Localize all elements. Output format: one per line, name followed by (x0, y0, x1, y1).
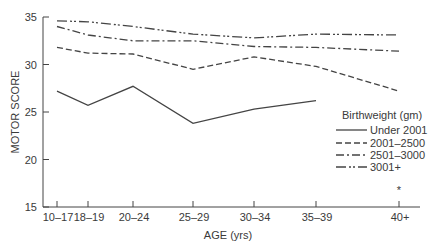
series-line-2 (57, 47, 399, 91)
x-ticks: 10–1718–1920–2425–2930–3435–3940+ (43, 201, 410, 223)
series-line-4 (57, 21, 399, 38)
line-chart: 1520253035 10–1718–1920–2425–2930–3435–3… (0, 0, 433, 250)
series-line-3 (57, 27, 399, 52)
x-tick-label: 25–29 (179, 211, 210, 223)
y-ticks: 1520253035 (25, 11, 49, 213)
x-tick-label: 40+ (391, 211, 410, 223)
legend-label-1: Under 2001 (370, 124, 428, 136)
y-tick-label: 15 (25, 201, 37, 213)
legend-title: Birthweight (gm) (342, 109, 422, 121)
x-tick-label: 20–24 (119, 211, 150, 223)
y-tick-label: 35 (25, 11, 37, 23)
legend-label-2: 2001–2500 (370, 137, 425, 149)
x-axis-title: AGE (yrs) (204, 229, 252, 241)
x-tick-label: 10–17 (43, 211, 74, 223)
y-tick-label: 20 (25, 154, 37, 166)
x-tick-label: 35–39 (302, 211, 333, 223)
y-tick-label: 30 (25, 59, 37, 71)
y-axis-title: MOTOR SCORE (9, 71, 21, 154)
series-line-1 (57, 86, 316, 123)
legend-label-3: 2501–3000 (370, 149, 425, 161)
annotations: * (397, 184, 402, 196)
x-tick-label: 30–34 (240, 211, 271, 223)
legend: Birthweight (gm) Under 20012001–25002501… (336, 109, 428, 173)
y-tick-label: 25 (25, 106, 37, 118)
annotation-marker: * (397, 184, 402, 196)
legend-label-4: 3001+ (370, 161, 401, 173)
x-tick-label: 18–19 (74, 211, 105, 223)
